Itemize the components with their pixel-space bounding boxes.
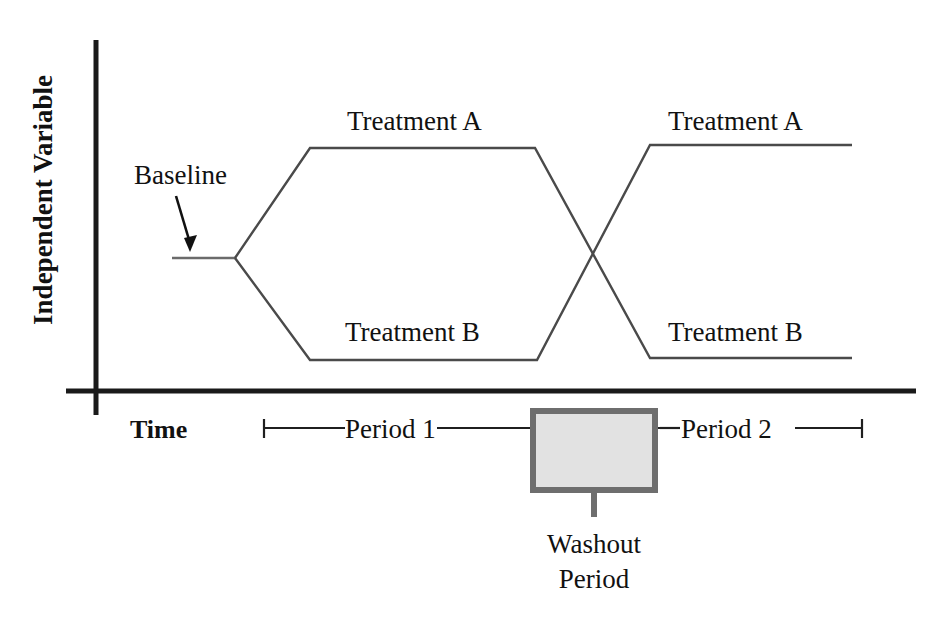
washout-label-line2: Period — [559, 564, 630, 594]
label-treatment-b-period2: Treatment B — [668, 317, 803, 347]
period-1-label: Period 1 — [345, 414, 436, 444]
baseline-label: Baseline — [134, 160, 227, 190]
crossover-design-diagram: Independent Variable Baseline Treatment … — [0, 0, 950, 623]
washout-label-line1: Washout — [547, 529, 641, 559]
label-treatment-a-period1: Treatment A — [347, 106, 482, 136]
baseline-arrow-shaft — [176, 196, 190, 243]
label-treatment-a-period2: Treatment A — [668, 106, 803, 136]
x-axis-label: Time — [130, 415, 187, 444]
baseline-arrow-head — [184, 235, 197, 252]
diagram-canvas: Independent Variable Baseline Treatment … — [0, 0, 950, 623]
label-treatment-b-period1: Treatment B — [345, 317, 480, 347]
period-2-label: Period 2 — [681, 414, 772, 444]
washout-period-box — [533, 411, 655, 490]
y-axis-label: Independent Variable — [28, 75, 58, 325]
